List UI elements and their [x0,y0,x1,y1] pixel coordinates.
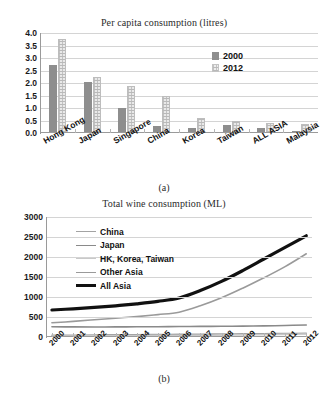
gridline [46,297,312,298]
line-chart-legend: ChinaJapanHK, Korea, TaiwanOther AsiaAll… [76,225,174,293]
gridline [46,217,312,218]
panel-b-line-chart: Total wine consumption (ML) 050010001500… [0,195,328,403]
bar-2000 [49,65,57,133]
bar-group [49,39,66,133]
bar-y-tick-label: 1.0 [25,104,40,113]
line-y-tick-label: 2000 [24,253,46,262]
line-y-tick-label: 1000 [24,293,46,302]
gridline [46,317,312,318]
bar-chart-legend: 20002012 [212,50,243,74]
bar-y-tick-label: 1.5 [25,91,40,100]
bar-2012 [58,39,66,133]
bar-legend-label: 2012 [223,63,243,73]
legend-swatch-icon [212,52,219,60]
bar-y-tick-label: 4.0 [25,29,40,38]
line-legend-item[interactable]: HK, Korea, Taiwan [76,252,174,266]
legend-line-icon [76,258,96,259]
line-series-japan [52,325,306,327]
bar-y-axis-line [40,33,41,134]
line-legend-item[interactable]: Japan [76,239,174,253]
legend-line-icon [76,272,96,273]
figure-wine-consumption: Per capita consumption (litres) 0.00.51.… [0,0,328,403]
line-y-tick-label: 2500 [24,233,46,242]
bar-2000 [84,82,92,133]
tickmark [110,129,111,133]
bar-y-tick-label: 0.0 [25,129,40,138]
tickmark [214,129,215,133]
line-y-tick-label: 3000 [24,213,46,222]
line-legend-label: All Asia [100,281,131,291]
line-y-tick-label: 500 [29,313,46,322]
line-y-tick-label: 0 [38,333,46,342]
legend-line-icon [76,231,96,232]
line-legend-label: China [100,227,124,237]
line-chart-title: Total wine consumption (ML) [0,198,328,209]
bar-y-tick-label: 0.5 [25,116,40,125]
bar-chart-title: Per capita consumption (litres) [0,17,328,28]
line-legend-item[interactable]: All Asia [76,279,174,293]
panel-b-caption: (b) [0,373,328,384]
bar-legend-item[interactable]: 2012 [212,62,243,74]
line-legend-label: Japan [100,240,125,250]
panel-a-caption: (a) [0,182,328,193]
line-legend-label: Other Asia [100,267,143,277]
bar-legend-item[interactable]: 2000 [212,50,243,62]
panel-a-bar-chart: Per capita consumption (litres) 0.00.51.… [0,0,328,200]
bar-y-tick-label: 2.5 [25,66,40,75]
bar-legend-label: 2000 [223,51,243,61]
legend-swatch-icon [212,64,219,72]
tickmark [249,129,250,133]
line-legend-item[interactable]: China [76,225,174,239]
tickmark [75,129,76,133]
line-legend-label: HK, Korea, Taiwan [100,254,174,264]
bar-y-tick-label: 3.0 [25,54,40,63]
line-legend-item[interactable]: Other Asia [76,266,174,280]
line-y-tick-label: 1500 [24,273,46,282]
bar-y-tick-label: 3.5 [25,41,40,50]
bar-y-tick-label: 2.0 [25,79,40,88]
legend-line-icon [76,245,96,246]
legend-line-icon [76,284,96,287]
tickmark [179,129,180,133]
line-y-axis-line [46,217,47,338]
